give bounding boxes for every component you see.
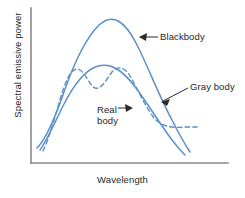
x-axis-label: Wavelength <box>0 174 245 185</box>
graybody-leader-line <box>163 88 188 101</box>
plot-canvas <box>0 0 245 198</box>
spectral-emissive-power-figure: Blackbody Gray body Real body Wavelength… <box>0 0 245 198</box>
realbody-arrow-icon <box>125 104 133 112</box>
annotation-label-real-body: Real body <box>97 105 118 126</box>
curve-real-body <box>43 68 197 151</box>
annotation-label-blackbody: Blackbody <box>160 32 205 43</box>
annotation-label-gray-body: Gray body <box>190 82 235 93</box>
y-axis-label: Spectral emissive power <box>12 12 23 117</box>
blackbody-arrow-icon <box>139 33 147 41</box>
y-axis-label-wrapper: Spectral emissive power <box>7 0 25 135</box>
